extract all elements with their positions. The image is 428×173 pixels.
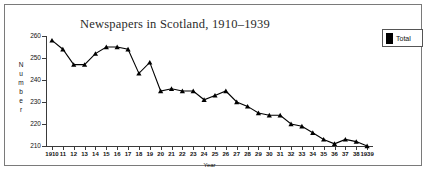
y-axis-title-letter: r [17, 105, 25, 114]
x-axis-tick [280, 147, 281, 150]
series-marker [321, 137, 326, 142]
x-axis-tick-label: 20 [157, 151, 164, 157]
x-axis-tick-label: 18 [136, 151, 143, 157]
x-axis-tick-label: 25 [212, 151, 219, 157]
x-axis-tick [95, 147, 96, 150]
plot-area [46, 36, 372, 146]
x-axis-tick [335, 147, 336, 150]
series-marker [223, 89, 228, 94]
x-axis-tick-label: 17 [125, 151, 132, 157]
x-axis-tick-label: 26 [222, 151, 229, 157]
series-line [52, 40, 367, 146]
chart-legend: Total [382, 29, 423, 47]
x-axis-tick [313, 147, 314, 150]
x-axis-tick [106, 147, 107, 150]
x-axis-tick-label: 30 [266, 151, 273, 157]
x-axis-tick [204, 147, 205, 150]
y-axis-tick-label: 250 [5, 55, 41, 62]
x-axis-tick [74, 147, 75, 150]
x-axis-tick [215, 147, 216, 150]
x-axis-tick-label: 19 [146, 151, 153, 157]
y-axis-title-letter: b [17, 87, 25, 96]
x-axis-tick [85, 147, 86, 150]
x-axis-tick-label: 31 [277, 151, 284, 157]
y-axis-tick-label: 210 [5, 143, 41, 150]
x-axis-tick-label: 35 [320, 151, 327, 157]
x-axis-tick-label: 36 [331, 151, 338, 157]
x-axis-tick-label: 38 [353, 151, 360, 157]
x-axis-tick [291, 147, 292, 150]
x-axis-tick-label: 29 [255, 151, 262, 157]
x-axis-tick [150, 147, 151, 150]
y-axis-tick-label: 230 [5, 99, 41, 106]
x-axis-tick-label: 22 [179, 151, 186, 157]
series-marker [49, 38, 54, 43]
series-marker [93, 51, 98, 56]
chart-frame: Newspapers in Scotland, 1910–1939 Total … [4, 4, 422, 166]
legend-label-total: Total [396, 35, 411, 42]
x-axis-tick [269, 147, 270, 150]
x-axis-tick [356, 147, 357, 150]
series-marker [365, 144, 370, 149]
x-axis-tick [139, 147, 140, 150]
x-axis-tick [161, 147, 162, 150]
series-marker [245, 104, 250, 109]
x-axis-tick-label: 34 [309, 151, 316, 157]
x-axis-tick [324, 147, 325, 150]
x-axis-tick [302, 147, 303, 150]
series-total-line [46, 36, 372, 146]
x-axis-tick-label: 32 [288, 151, 295, 157]
x-axis-tick [193, 147, 194, 150]
x-axis-tick-label: 15 [103, 151, 110, 157]
x-axis-tick [258, 147, 259, 150]
y-axis-tick-label: 240 [5, 77, 41, 84]
x-axis-tick-label: 37 [342, 151, 349, 157]
x-axis-tick [237, 147, 238, 150]
y-axis-tick-label: 260 [5, 33, 41, 40]
x-axis-tick-label: 14 [92, 151, 99, 157]
y-axis-tick-label: 220 [5, 121, 41, 128]
x-axis-tick [63, 147, 64, 150]
x-axis-tick [52, 147, 53, 150]
x-axis-tick-label: 1939 [360, 151, 373, 157]
x-axis-tick-label: 13 [81, 151, 88, 157]
x-axis-tick-label: 11 [60, 151, 66, 157]
y-axis-title: N u m b e r [17, 60, 25, 114]
chart-title: Newspapers in Scotland, 1910–1939 [5, 17, 345, 32]
x-axis-tick [345, 147, 346, 150]
chart-screenshot: Newspapers in Scotland, 1910–1939 Total … [0, 0, 428, 173]
x-axis-tick [182, 147, 183, 150]
x-axis-tick [172, 147, 173, 150]
series-marker [147, 60, 152, 65]
x-axis-tick [117, 147, 118, 150]
x-axis-tick-label: 24 [201, 151, 208, 157]
legend-swatch-total [386, 33, 393, 44]
x-axis-tick [248, 147, 249, 150]
x-axis-tick [226, 147, 227, 150]
x-axis-tick-label: 12 [70, 151, 77, 157]
x-axis-tick-label: 1910 [45, 151, 58, 157]
x-axis-tick-label: 21 [168, 151, 175, 157]
x-axis-title: Year [46, 162, 373, 168]
series-marker [332, 141, 337, 146]
x-axis-tick [128, 147, 129, 150]
x-axis-tick-label: 27 [233, 151, 240, 157]
x-axis-tick-label: 28 [244, 151, 251, 157]
x-axis-tick-label: 33 [299, 151, 306, 157]
series-marker [212, 93, 217, 98]
x-axis-tick-label: 23 [190, 151, 197, 157]
y-axis-tick [42, 146, 46, 147]
series-marker [310, 130, 315, 135]
x-axis-tick-label: 16 [114, 151, 121, 157]
